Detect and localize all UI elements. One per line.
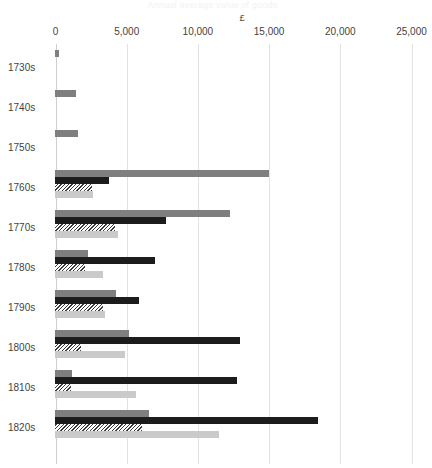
bar-1810s-series-2 <box>55 377 237 384</box>
bar-1780s-series-1 <box>55 250 88 257</box>
x-tick-label: 10,000 <box>183 26 214 37</box>
x-tick-label: 20,000 <box>325 26 356 37</box>
bar-1770s-series-2 <box>55 217 166 224</box>
bar-group-1750s: 1750s <box>0 124 425 164</box>
bar-1760s-series-1 <box>55 170 269 177</box>
bar-1820s-series-1 <box>55 410 149 417</box>
y-axis-category-label: 1750s <box>8 142 52 153</box>
bar-1810s-series-1 <box>55 370 72 377</box>
y-axis-category-label: 1820s <box>8 422 52 433</box>
bar-group-1760s: 1760s <box>0 164 425 204</box>
bar-1790s-series-2 <box>55 297 139 304</box>
x-tick-label: 25,000 <box>396 26 427 37</box>
x-axis-tick-labels: 05,00010,00015,00020,00025,000 <box>0 26 425 40</box>
bar-1790s-series-4 <box>55 311 105 318</box>
bar-1760s-series-2 <box>55 177 109 184</box>
currency-symbol: £ <box>240 12 245 23</box>
bar-1770s-series-1 <box>55 210 230 217</box>
bar-1810s-series-4 <box>55 391 136 398</box>
bar-group-1740s: 1740s <box>0 84 425 124</box>
plot-area: 1730s1740s1750s1760s1770s1780s1790s1800s… <box>0 44 425 464</box>
x-tick-label: 0 <box>53 26 59 37</box>
bar-1800s-series-4 <box>55 351 125 358</box>
bar-1820s-series-3 <box>55 424 142 431</box>
bar-1750s-series-1 <box>55 130 78 137</box>
y-axis-category-label: 1770s <box>8 222 52 233</box>
x-axis-unit-label: £ <box>0 12 432 23</box>
x-tick-label: 15,000 <box>254 26 285 37</box>
bar-1730s-series-1 <box>55 50 59 57</box>
y-axis-category-label: 1790s <box>8 302 52 313</box>
y-axis-category-label: 1740s <box>8 102 52 113</box>
y-axis-category-label: 1760s <box>8 182 52 193</box>
bar-group-1770s: 1770s <box>0 204 425 244</box>
bar-1810s-series-3 <box>55 384 71 391</box>
bar-group-1810s: 1810s <box>0 364 425 404</box>
bar-1780s-series-2 <box>55 257 155 264</box>
bar-1800s-series-2 <box>55 337 240 344</box>
bar-group-1800s: 1800s <box>0 324 425 364</box>
bar-1820s-series-4 <box>55 431 219 438</box>
y-axis-category-label: 1780s <box>8 262 52 273</box>
bar-1790s-series-3 <box>55 304 103 311</box>
chart-title-faint: Annual average value of goods <box>0 0 425 12</box>
y-axis-category-label: 1730s <box>8 62 52 73</box>
bar-1800s-series-1 <box>55 330 129 337</box>
bar-1760s-series-4 <box>55 191 93 198</box>
bar-group-1730s: 1730s <box>0 44 425 84</box>
bar-1760s-series-3 <box>55 184 92 191</box>
y-axis-category-label: 1810s <box>8 382 52 393</box>
y-axis-category-label: 1800s <box>8 342 52 353</box>
bar-1780s-series-4 <box>55 271 103 278</box>
bar-group-1780s: 1780s <box>0 244 425 284</box>
bar-1790s-series-1 <box>55 290 116 297</box>
x-tick-label: 5,000 <box>114 26 139 37</box>
bar-group-1790s: 1790s <box>0 284 425 324</box>
bar-1780s-series-3 <box>55 264 85 271</box>
bar-1820s-series-2 <box>55 417 318 424</box>
bar-1770s-series-4 <box>55 231 118 238</box>
bar-group-1820s: 1820s <box>0 404 425 444</box>
bar-1770s-series-3 <box>55 224 115 231</box>
bar-1740s-series-1 <box>55 90 76 97</box>
bar-1800s-series-3 <box>55 344 81 351</box>
